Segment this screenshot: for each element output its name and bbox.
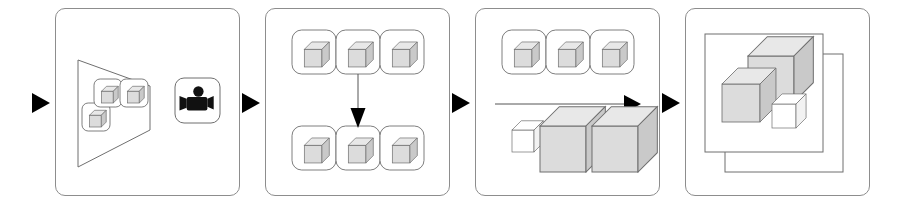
flow-arrow-2: [242, 93, 260, 113]
flow-arrow-3: [452, 93, 470, 113]
flow-arrow-1: [32, 93, 50, 113]
panel-scene-output-stage: [685, 8, 870, 196]
pipeline-diagram: Four-stage 3D reconstruction pipeline di…: [0, 0, 906, 203]
flow-arrow-4: [662, 93, 680, 113]
panel-matching-stage: [265, 8, 450, 196]
panel-reconstruction-stage: [475, 8, 660, 196]
panel-capture-stage: [55, 8, 240, 196]
